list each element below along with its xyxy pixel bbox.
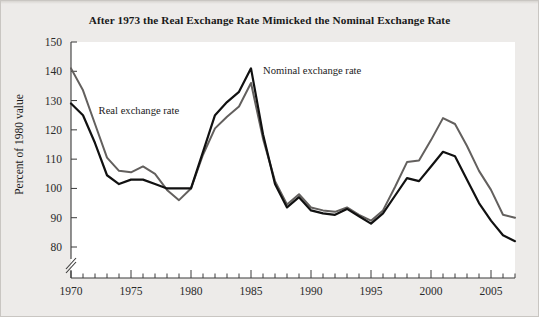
chart-plot-area: 1501401301201101009080Percent of 1980 va… [1, 1, 539, 317]
y-tick-label: 90 [51, 212, 63, 224]
x-tick-label: 2000 [420, 285, 443, 297]
nominal-series-label: Nominal exchange rate [263, 65, 362, 76]
x-tick-label: 1975 [120, 285, 143, 297]
real-series-label: Real exchange rate [99, 105, 180, 116]
y-tick-label: 80 [51, 241, 63, 253]
x-tick-label: 1990 [300, 285, 323, 297]
x-axis-labels: 19701975198019851990199520002005 [60, 285, 503, 297]
y-tick-label: 150 [45, 36, 63, 48]
y-axis-title: Percent of 1980 value [13, 94, 25, 195]
x-tick-label: 1970 [60, 285, 83, 297]
x-tick-label: 1995 [360, 285, 383, 297]
x-tick-label: 1980 [180, 285, 203, 297]
x-tick-label: 2005 [480, 285, 503, 297]
plot-background [71, 42, 515, 278]
y-tick-label: 140 [45, 65, 63, 77]
y-tick-label: 100 [45, 182, 63, 194]
y-tick-label: 130 [45, 95, 63, 107]
chart-figure: After 1973 the Real Exchange Rate Mimick… [0, 0, 539, 317]
y-tick-label: 110 [45, 153, 62, 165]
x-tick-label: 1985 [240, 285, 263, 297]
y-tick-label: 120 [45, 124, 63, 136]
